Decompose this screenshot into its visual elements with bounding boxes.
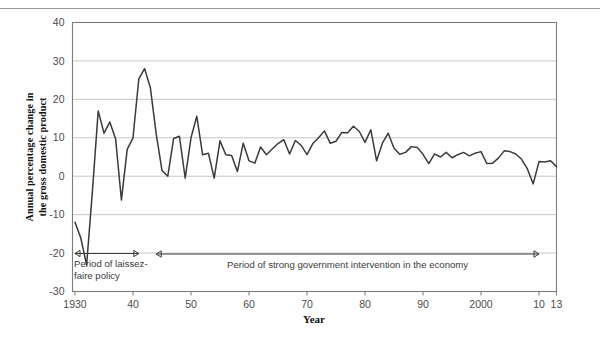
y-tick-label: 20 (53, 93, 65, 105)
laissez-faire-label-line2: faire policy (74, 270, 120, 281)
chart-page: 403020100-10-20-30 193040506070809020001… (0, 0, 600, 337)
intervention-label: Period of strong government intervention… (227, 259, 468, 270)
x-tick-label: 60 (243, 298, 255, 310)
x-tick-label: 2000 (469, 298, 493, 310)
y-axis-ticks: 403020100-10-20-30 (49, 16, 64, 297)
x-tick-label: 90 (417, 298, 429, 310)
y-tick-label: -20 (49, 247, 64, 259)
x-tick-label: 10 (533, 298, 545, 310)
x-tick-label: 70 (301, 298, 313, 310)
y-tick-label: 0 (59, 170, 65, 182)
x-tick-label: 1930 (63, 298, 87, 310)
x-tick-label: 50 (185, 298, 197, 310)
x-axis-title: Year (303, 313, 325, 325)
y-tick-label: 10 (53, 131, 65, 143)
gdp-line-chart: 403020100-10-20-30 193040506070809020001… (0, 0, 600, 337)
annotation-intervention: Period of strong government intervention… (156, 251, 539, 270)
x-tick-label: 80 (359, 298, 371, 310)
y-tick-label: -30 (49, 285, 64, 297)
x-tick-label: 40 (127, 298, 139, 310)
laissez-faire-label-line1: Period of laissez- (74, 258, 148, 269)
y-tick-label: 30 (53, 55, 65, 67)
intervention-arrow (156, 251, 539, 257)
x-axis-ticks: 193040506070809020001013 (63, 292, 562, 310)
y-axis-title-line2: the gross domestic product (37, 97, 48, 217)
y-tick-label: 40 (53, 16, 65, 28)
y-tick-label: -10 (49, 208, 64, 220)
x-tick-label: 13 (551, 298, 563, 310)
y-axis-title-line1: Annual percentage change in (24, 92, 35, 221)
gdp-data-line (75, 69, 556, 265)
